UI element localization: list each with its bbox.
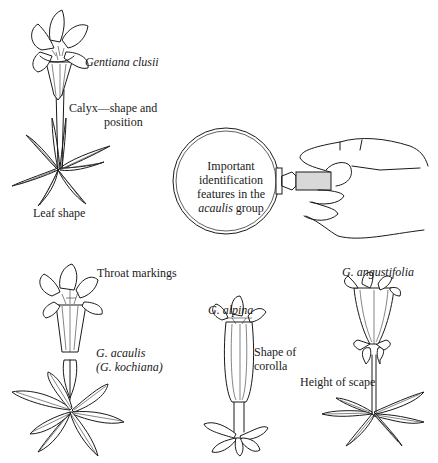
label-calyx-line2: position <box>104 115 143 129</box>
g-alpina-drawing <box>204 296 268 456</box>
label-gentiana-clusii: Gentiana clusii <box>85 55 159 69</box>
label-throat-markings: Throat markings <box>97 266 177 280</box>
g-angustifolia-drawing <box>322 272 424 446</box>
label-shape-of: Shape of <box>254 345 296 359</box>
label-height-of-scape: Height of scape <box>300 375 375 389</box>
label-leaf-shape: Leaf shape <box>33 206 85 220</box>
label-g-kochiana: (G. kochiana) <box>96 360 163 374</box>
magnifier-caption-acaulis: acaulis <box>198 201 233 215</box>
label-g-angustifolia: G. angustifolia <box>342 265 414 279</box>
label-calyx-line1: Calyx—shape and <box>69 101 157 115</box>
illustration-canvas <box>0 0 438 463</box>
magnifier-caption: Important identification features in the… <box>176 159 286 215</box>
label-g-alpina: G. alpina <box>208 303 253 317</box>
label-corolla: corolla <box>254 359 287 373</box>
magnifier-caption-line1: Important <box>176 159 286 173</box>
magnifier-caption-line2: identification <box>176 173 286 187</box>
label-g-acaulis: G. acaulis <box>96 346 145 360</box>
magnifier-caption-line4: acaulis group <box>176 201 286 215</box>
magnifier-caption-group: group <box>233 201 264 215</box>
magnifier-caption-line3: features in the <box>176 187 286 201</box>
